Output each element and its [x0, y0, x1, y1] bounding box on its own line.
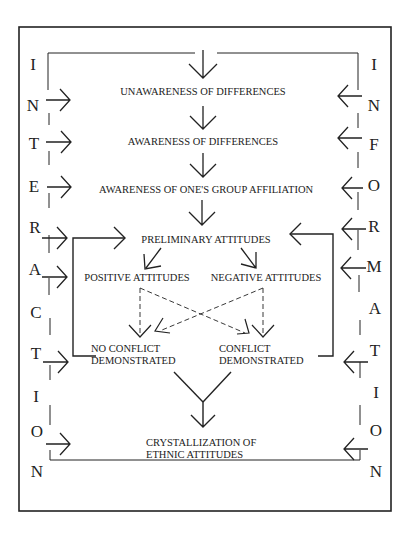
left-letter: A	[29, 260, 42, 279]
converging-arrow	[174, 372, 231, 427]
node-no-conflict-line2: DEMONSTRATED	[91, 355, 176, 366]
right-letter: F	[369, 135, 378, 154]
node-preliminary-attitudes: PRELIMINARY ATTITUDES	[141, 234, 271, 245]
down-arrow-icon	[190, 106, 216, 129]
node-negative-attitudes: NEGATIVE ATTITUDES	[211, 272, 322, 283]
down-arrow-icon	[189, 200, 215, 225]
down-arrow-icon	[190, 153, 216, 177]
right-arrow-icon	[47, 176, 71, 198]
left-side-line	[49, 113, 50, 425]
right-letter: I	[373, 383, 379, 402]
node-crystallization-line1: CRYSTALLIZATION OF	[146, 437, 256, 448]
right-arrow-icon	[43, 351, 68, 373]
node-unawareness: UNAWARENESS OF DIFFERENCES	[120, 86, 286, 97]
left-arrow-icon	[342, 177, 363, 199]
arrowhead-icon	[237, 319, 249, 334]
right-side-line	[358, 113, 360, 425]
down-arrow-icon	[189, 50, 217, 78]
interaction-label: I N T E R A C T I O N	[27, 55, 43, 481]
right-letter: R	[368, 217, 380, 236]
left-letter: N	[31, 462, 43, 481]
right-letter: I	[371, 55, 377, 74]
left-arrow-icon	[342, 218, 366, 240]
right-letter: M	[366, 257, 381, 276]
information-arrows	[338, 85, 368, 460]
left-letter: T	[29, 134, 40, 153]
right-letter: N	[370, 462, 382, 481]
left-letter: T	[31, 344, 42, 363]
right-letter: T	[370, 341, 381, 360]
information-label: I N F O R M A T I O N	[366, 55, 382, 481]
node-conflict-line2: DEMONSTRATED	[219, 355, 304, 366]
left-arrow-icon	[344, 438, 368, 460]
node-no-conflict-line1: NO CONFLICT	[91, 343, 161, 354]
left-letter: O	[31, 422, 43, 441]
right-letter: N	[368, 96, 380, 115]
right-arrow-icon	[42, 266, 67, 288]
dashed-cross-links	[140, 288, 263, 335]
top-right-bracket	[217, 53, 358, 90]
right-letter: A	[369, 299, 382, 318]
left-arrow-icon	[341, 257, 366, 279]
left-arrow-icon	[338, 127, 362, 149]
left-letter: N	[27, 96, 39, 115]
left-arrow-icon	[344, 351, 368, 373]
node-crystallization-line2: ETHNIC ATTITUDES	[146, 449, 243, 460]
arrowhead-icon	[155, 318, 170, 333]
left-letter: I	[30, 55, 36, 74]
right-letter: O	[370, 421, 382, 440]
down-left-arrow-icon	[144, 248, 161, 269]
ethnic-attitudes-flow-diagram: I N T E R A C T I O N I N F O R M A T I …	[0, 0, 410, 536]
right-arrow-icon	[46, 89, 70, 111]
right-arrow-icon	[42, 227, 67, 249]
node-positive-attitudes: POSITIVE ATTITUDES	[84, 272, 189, 283]
node-group-affiliation: AWARENESS OF ONE'S GROUP AFFILIATION	[99, 184, 314, 195]
down-arrow-icon	[191, 402, 215, 427]
node-awareness: AWARENESS OF DIFFERENCES	[128, 136, 278, 147]
top-left-bracket	[48, 53, 195, 90]
left-letter: R	[29, 218, 41, 237]
node-conflict-line1: CONFLICT	[219, 343, 271, 354]
left-letter: E	[29, 177, 39, 196]
left-letter: C	[30, 303, 41, 322]
interaction-arrows	[42, 89, 71, 455]
left-letter: I	[33, 387, 39, 406]
right-arrow-icon	[46, 131, 71, 153]
down-right-arrow-icon	[241, 248, 256, 268]
right-letter: O	[368, 176, 380, 195]
